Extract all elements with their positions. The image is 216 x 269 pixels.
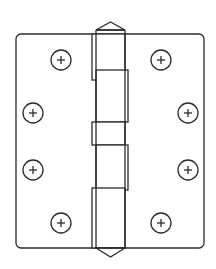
screw-icon — [23, 103, 43, 123]
hinge-drawing — [0, 0, 216, 269]
screw-icon — [51, 213, 71, 233]
knuckle-left — [92, 188, 125, 248]
pin-top-tip — [96, 22, 125, 30]
hinge-diagram — [0, 0, 216, 269]
knuckle-right — [96, 145, 128, 190]
screw-icon — [178, 103, 198, 123]
screw-icon — [51, 50, 71, 70]
screw-icon — [151, 213, 171, 233]
knuckle-left — [92, 122, 125, 145]
knuckle-right — [96, 70, 128, 122]
screw-icon — [151, 50, 171, 70]
hinge-knuckles — [92, 34, 128, 248]
screw-icon — [23, 160, 43, 180]
screw-icon — [178, 160, 198, 180]
pin-bottom-tip — [96, 248, 125, 257]
